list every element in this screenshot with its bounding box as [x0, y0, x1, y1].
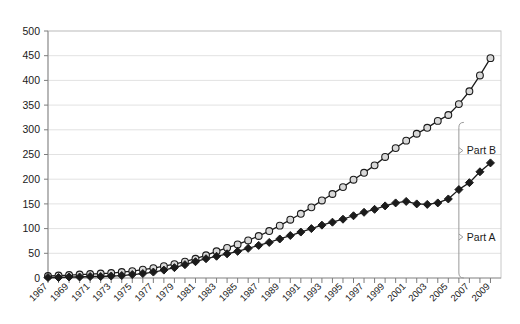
- data-point-marker: [318, 221, 326, 229]
- data-point-marker: [392, 199, 400, 207]
- annotation-pointer: [459, 148, 463, 154]
- data-point-marker: [255, 241, 263, 249]
- data-point-marker: [223, 250, 231, 258]
- data-point-marker: [255, 233, 262, 240]
- data-point-marker: [413, 130, 420, 137]
- x-tick-label: 2003: [406, 281, 429, 304]
- data-point-marker: [307, 225, 315, 233]
- line-chart: 050100150200250300350400450500 196719691…: [0, 0, 520, 324]
- data-point-marker: [381, 202, 389, 210]
- data-point-marker: [434, 199, 442, 207]
- data-point-marker: [339, 215, 347, 223]
- x-tick-label: 1995: [322, 281, 345, 304]
- data-point-marker: [445, 112, 452, 119]
- part-bracket: [459, 122, 464, 278]
- data-point-marker: [276, 235, 284, 243]
- data-point-marker: [382, 154, 389, 161]
- data-point-marker: [361, 169, 368, 176]
- series-2: [44, 159, 494, 282]
- xtick-labels: 1967196919711973197519771979198119831985…: [27, 281, 492, 304]
- annotation-pointer: [459, 234, 463, 240]
- data-point-marker: [403, 137, 410, 144]
- ytick-labels: 050100150200250300350400450500: [22, 25, 48, 284]
- y-tick-label: 450: [22, 49, 40, 61]
- data-point-marker: [319, 197, 326, 204]
- xtick-marks: [48, 278, 490, 283]
- data-point-marker: [371, 162, 378, 169]
- x-tick-label: 1967: [27, 281, 50, 304]
- y-tick-label: 100: [22, 222, 40, 234]
- x-tick-label: 1973: [90, 281, 113, 304]
- series-layer: [44, 55, 494, 282]
- y-tick-label: 300: [22, 123, 40, 135]
- x-tick-label: 1971: [69, 281, 92, 304]
- data-point-marker: [477, 72, 484, 79]
- data-point-marker: [287, 216, 294, 223]
- bracket-annotation: [459, 122, 464, 278]
- data-point-marker: [423, 200, 431, 208]
- data-point-marker: [308, 204, 315, 211]
- data-point-marker: [244, 244, 252, 252]
- y-tick-label: 50: [28, 247, 40, 259]
- data-point-marker: [234, 247, 242, 255]
- x-tick-label: 1999: [364, 281, 387, 304]
- x-tick-label: 1985: [216, 281, 239, 304]
- x-tick-label: 2007: [448, 281, 471, 304]
- x-tick-label: 1975: [111, 281, 134, 304]
- data-point-marker: [350, 212, 358, 220]
- data-point-marker: [371, 205, 379, 213]
- data-point-marker: [297, 228, 305, 236]
- series-line: [48, 163, 490, 278]
- data-point-marker: [434, 118, 441, 125]
- data-point-marker: [424, 124, 431, 131]
- x-tick-label: 2005: [427, 281, 450, 304]
- x-tick-label: 1977: [132, 281, 155, 304]
- x-tick-label: 2001: [385, 281, 408, 304]
- data-point-marker: [276, 222, 283, 229]
- x-tick-label: 1983: [195, 281, 218, 304]
- data-point-marker: [340, 184, 347, 191]
- data-point-marker: [245, 237, 252, 244]
- data-point-marker: [265, 238, 273, 246]
- data-point-marker: [329, 191, 336, 198]
- y-tick-label: 500: [22, 25, 40, 37]
- x-tick-label: 1989: [258, 281, 281, 304]
- annotation-label-part-b: Part B: [467, 144, 496, 156]
- data-point-marker: [455, 101, 462, 108]
- y-tick-label: 250: [22, 148, 40, 160]
- y-tick-label: 150: [22, 198, 40, 210]
- data-point-marker: [328, 218, 336, 226]
- data-point-marker: [466, 88, 473, 95]
- x-tick-label: 1987: [237, 281, 260, 304]
- x-tick-label: 1979: [153, 281, 176, 304]
- x-tick-label: 2009: [469, 281, 492, 304]
- data-point-marker: [392, 145, 399, 152]
- chart-container: 050100150200250300350400450500 196719691…: [0, 0, 520, 324]
- data-point-marker: [266, 228, 273, 235]
- x-tick-label: 1991: [280, 281, 303, 304]
- grid-layer: [48, 31, 501, 253]
- data-point-marker: [297, 210, 304, 217]
- x-tick-label: 1993: [301, 281, 324, 304]
- x-tick-label: 1997: [343, 281, 366, 304]
- data-point-marker: [360, 208, 368, 216]
- annotation-label-part-a: Part A: [467, 231, 496, 243]
- x-tick-label: 1969: [48, 281, 71, 304]
- data-point-marker: [286, 232, 294, 240]
- y-tick-label: 400: [22, 74, 40, 86]
- y-tick-label: 350: [22, 99, 40, 111]
- x-tick-label: 1981: [174, 281, 197, 304]
- data-point-marker: [487, 55, 494, 62]
- data-point-marker: [413, 200, 421, 208]
- y-tick-label: 200: [22, 173, 40, 185]
- data-point-marker: [350, 176, 357, 183]
